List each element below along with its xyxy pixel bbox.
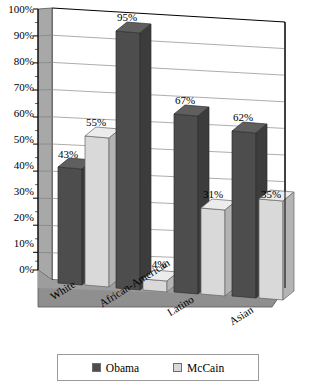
legend-entry-mccain: McCain: [173, 362, 224, 374]
data-label-white-obama: 43%: [48, 148, 88, 160]
y-axis-ticks: [33, 9, 38, 270]
data-label-asian-mccain: 35%: [251, 188, 291, 200]
data-label-african-american-obama: 95%: [107, 11, 147, 23]
bar-african-american-obama: [116, 22, 151, 290]
bar-white-mccain: [85, 127, 120, 287]
data-label-latino-mccain: 31%: [193, 188, 233, 200]
legend-entry-obama: Obama: [92, 362, 139, 374]
data-label-asian-obama: 62%: [223, 111, 263, 123]
legend-label-mccain: McCain: [187, 362, 224, 374]
legend-label-obama: Obama: [106, 362, 139, 374]
legend-swatch-mccain: [173, 363, 182, 372]
data-label-latino-obama: 67%: [165, 94, 205, 106]
bar-asian-mccain: [259, 190, 294, 300]
data-label-white-mccain: 55%: [76, 116, 116, 128]
bar-latino-mccain: [201, 199, 236, 296]
legend-swatch-obama: [92, 363, 101, 372]
bar-chart: 100% 90% 80% 70% 60% 50% 40% 30% 20% 10%…: [0, 0, 316, 390]
chart-legend: Obama McCain: [57, 354, 259, 381]
